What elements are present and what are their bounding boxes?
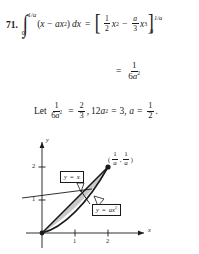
comma-2: , [124,106,126,116]
callout-line-y: y [64,173,67,180]
intersection-point-label: ( 1 a , 1 a ) [108,151,133,167]
result-denominator: 6a2 [127,72,142,82]
answer-numerator: 1 [147,102,154,112]
y-tick-label-1: 1 [32,195,35,202]
integrand-x: x [40,19,44,29]
middle-minus: − [122,19,127,29]
one-half-numerator: 1 [104,15,111,24]
period: . [156,106,158,116]
bracket-open: [ [95,14,101,33]
point-y-denominator: a [123,160,130,168]
two-thirds-denominator: 3 [78,112,85,121]
point-close-paren: ) [131,156,133,163]
callout-line-equals: = [70,173,74,180]
callout-parabola-exponent: 2 [115,204,117,209]
coefficient-12: 12 [91,106,101,116]
point-x-fraction: 1 a [112,151,119,167]
evaluation-lower-limit: 0 [150,27,158,34]
graph-svg [22,136,172,252]
equals-sign-4: = [111,106,116,116]
equals-sign-1: = [85,19,90,29]
x-tick-label-2: 2 [106,237,109,244]
answer-denominator: 2 [147,112,154,121]
let-lhs-denominator: 6a2 [50,112,64,121]
antiderivative-expression: 1 2 x2 − a 3 x3 [102,14,147,33]
equation-line-3: Let 1 6a2 = 2 3 , 12a2 = 3 , a = 1 2 . [34,102,158,121]
let-lhs-fraction: 1 6a2 [50,102,64,121]
comma-1: , [87,106,89,116]
integrand-close-paren: ) [67,19,70,29]
callout-line-label: y=x [60,171,84,183]
evaluation-upper-limit: 1/a [154,14,162,21]
integral-symbol-group: ∫ 1/a 0 [22,12,36,35]
y-axis-label: y [46,136,49,143]
integral-upper-limit: 1/a [28,11,36,18]
x-tick-label-1: 1 [73,237,76,244]
two-thirds-numerator: 2 [78,102,85,112]
integrand-minus: − [47,19,52,29]
origin-point [40,231,45,236]
equals-sign-3: = [68,106,73,116]
point-x-denominator: a [112,160,119,168]
one-half-answer-fraction: 1 2 [147,102,154,121]
callout-line-rhs: x [77,173,80,180]
callout-parabola-y: y [96,206,99,213]
equals-sign-2: = [116,66,121,76]
a-over-three-numerator: a [132,15,139,24]
x-axis-arrowhead [138,231,144,236]
antiderivative-bracket-group: [ 1 2 x2 − a 3 x3 ] 1/a 0 [94,14,162,33]
solution-page: 71. ∫ 1/a 0 ( x − a x2 ) dx = [ 1 2 x2 [0,0,199,254]
differential-dx: dx [72,19,81,29]
solution-variable-a: a [129,106,134,116]
integral-lower-limit: 0 [22,29,30,36]
point-comma: , [120,156,122,163]
equation-line-2: = 1 6a2 [113,61,143,81]
callout-parabola-label: y=ax2 [92,204,121,216]
one-half-denominator: 2 [104,24,111,32]
graph-figure: x y 1 2 1 2 y=x y=ax2 ( 1 a , 1 a ) [22,136,172,252]
result-fraction: 1 6a2 [127,61,142,81]
two-thirds-fraction: 2 3 [78,102,85,121]
point-open-paren: ( [108,156,110,163]
callout-parabola-equals: = [102,206,106,213]
let-keyword: Let [34,106,47,116]
equation-line-1: ∫ 1/a 0 ( x − a x2 ) dx = [ 1 2 x2 − a [22,12,162,35]
problem-number: 71. [6,20,18,30]
a-over-three-fraction: a 3 [132,15,139,32]
point-y-fraction: 1 a [123,151,130,167]
one-half-fraction: 1 2 [104,15,111,32]
evaluation-limits: 1/a 0 [154,14,162,33]
a-over-three-denominator: 3 [132,24,139,32]
y-axis-arrowhead [40,142,45,148]
integral-limits: 1/a 0 [28,12,36,35]
equals-sign-5: = [137,106,142,116]
x-axis-label: x [148,226,151,233]
y-tick-label-2: 2 [32,162,35,169]
